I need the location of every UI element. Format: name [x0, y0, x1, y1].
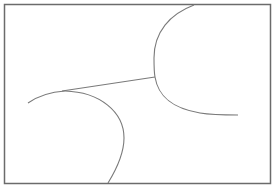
lower-left-curve-right: [65, 91, 124, 183]
lower-left-curve-left: [28, 91, 65, 103]
upper-right-curve-bottom: [155, 77, 238, 115]
upper-right-curve-top: [154, 5, 194, 77]
curve-group: [28, 5, 238, 183]
connector-line: [62, 77, 155, 91]
diagram-svg: [0, 0, 273, 188]
diagram-canvas: [0, 0, 273, 188]
diagram-frame: [5, 5, 271, 184]
